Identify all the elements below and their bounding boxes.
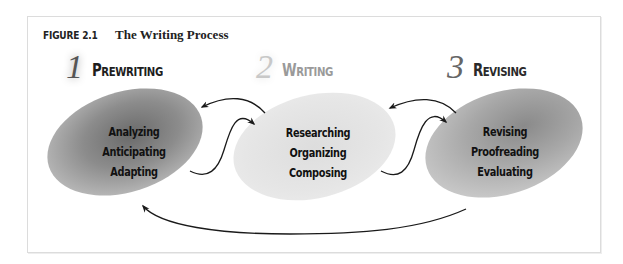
connector-arrows bbox=[0, 0, 623, 264]
arrow-writing-to-revising bbox=[381, 117, 446, 175]
arrow-writing-to-prewriting bbox=[202, 99, 265, 113]
arrow-revising-to-prewriting bbox=[143, 206, 466, 234]
arrow-revising-to-writing bbox=[390, 100, 456, 113]
arrow-prewriting-to-writing bbox=[190, 118, 254, 174]
